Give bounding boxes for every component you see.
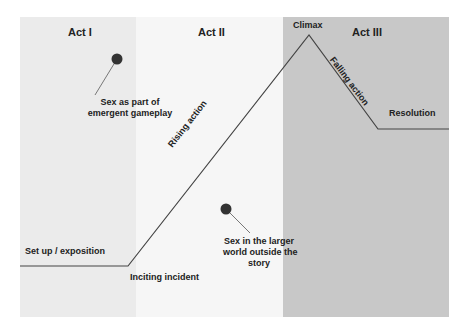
annotation-dot-1 (112, 54, 123, 65)
resolution-label: Resolution (389, 108, 436, 119)
inciting-incident-label: Inciting incident (130, 272, 199, 283)
setup-label: Set up / exposition (25, 246, 105, 257)
act-3-title: Act III (352, 27, 382, 38)
annotation-1-line-1: Sex as part of (82, 97, 178, 108)
act-1-title: Act I (68, 27, 92, 38)
annotation-2-line-3: story (223, 258, 295, 269)
annotation-dot-2 (221, 204, 232, 215)
annotation-emergent-gameplay: Sex as part of emergent gameplay (82, 97, 178, 119)
act-2-title: Act II (198, 27, 225, 38)
climax-label: Climax (293, 20, 323, 31)
annotation-larger-world: Sex in the larger world outside the stor… (223, 236, 295, 269)
annotation-leader-1 (95, 59, 117, 95)
annotation-2-line-2: world outside the (223, 247, 295, 258)
annotation-1-line-2: emergent gameplay (82, 108, 178, 119)
story-arc-diagram (0, 0, 470, 335)
annotation-2-line-1: Sex in the larger (223, 236, 295, 247)
story-arc-line (20, 35, 449, 266)
